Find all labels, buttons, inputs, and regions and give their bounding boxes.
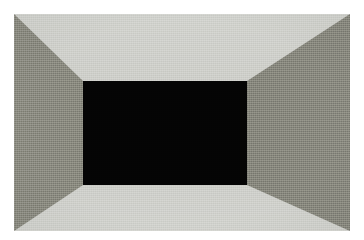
page-canvas bbox=[0, 0, 364, 240]
perspective-room-image bbox=[14, 14, 350, 231]
